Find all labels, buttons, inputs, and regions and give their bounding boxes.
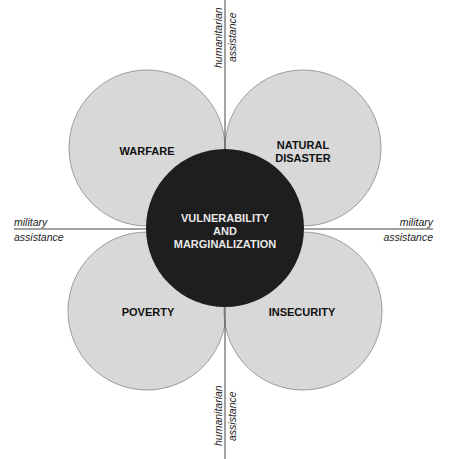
left-axis-label-2: assistance bbox=[14, 231, 64, 243]
label-warfare: WARFARE bbox=[120, 145, 175, 157]
bottom-axis-label-2: assistance bbox=[226, 391, 238, 441]
label-disaster: DISASTER bbox=[275, 152, 331, 164]
label-insecurity: INSECURITY bbox=[269, 306, 336, 318]
center-label-line2: AND bbox=[213, 225, 237, 237]
center-label-line3: MARGINALIZATION bbox=[174, 238, 277, 250]
right-axis-label-2: assistance bbox=[383, 231, 433, 243]
center-label-line1: VULNERABILITY bbox=[181, 212, 270, 224]
top-axis-label-2: assistance bbox=[226, 12, 238, 62]
vulnerability-diagram: WARFARE NATURAL DISASTER POVERTY INSECUR… bbox=[0, 0, 449, 459]
bottom-axis-label-1: humanitarian bbox=[212, 385, 224, 446]
left-axis-label-1: military bbox=[14, 216, 48, 228]
top-axis-label-1: humanitarian bbox=[212, 7, 224, 68]
label-poverty: POVERTY bbox=[122, 306, 175, 318]
label-natural: NATURAL bbox=[277, 139, 330, 151]
right-axis-label-1: military bbox=[400, 216, 434, 228]
